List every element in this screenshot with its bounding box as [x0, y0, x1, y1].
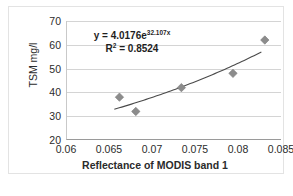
- data-point-marker: [261, 36, 269, 44]
- x-tick-label: 0.065: [86, 143, 132, 155]
- x-tick-label: 0.085: [258, 143, 293, 155]
- x-tick-label: 0.07: [129, 143, 175, 155]
- y-tick-label: 60: [15, 40, 61, 50]
- x-tick-label: 0.06: [43, 143, 89, 155]
- equation-label: y = 4.0176e32.107x: [71, 29, 193, 42]
- chart-figure: TSM mg/l 203040506070 y = 4.0176e32.107x…: [0, 0, 293, 196]
- data-point-marker: [177, 83, 185, 91]
- chart-frame: TSM mg/l 203040506070 y = 4.0176e32.107x…: [8, 6, 284, 174]
- regression-annotation: y = 4.0176e32.107x R2 = 0.8524: [71, 29, 193, 56]
- data-point-marker: [115, 93, 123, 101]
- y-tick-label: 30: [15, 111, 61, 121]
- y-axis-tick-labels: 203040506070: [15, 21, 61, 140]
- trendline: [114, 52, 261, 109]
- data-point-marker: [229, 69, 237, 77]
- x-tick-label: 0.08: [215, 143, 261, 155]
- data-point-marker: [132, 107, 140, 115]
- y-tick-label: 40: [15, 87, 61, 97]
- r-squared-label: R2 = 0.8524: [71, 42, 193, 56]
- x-axis-tick-labels: 0.060.0650.070.0750.080.085: [66, 143, 281, 157]
- y-tick-label: 70: [15, 16, 61, 26]
- x-axis-title: Reflectance of MODIS band 1: [17, 159, 293, 171]
- x-tick-label: 0.075: [172, 143, 218, 155]
- y-tick-label: 50: [15, 64, 61, 74]
